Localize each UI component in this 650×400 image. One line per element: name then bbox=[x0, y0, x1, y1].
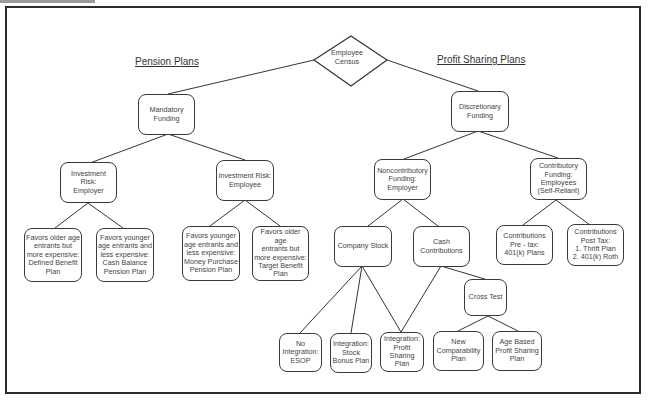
node-profit-sharing-plan: Integration: Profit Sharing Plan bbox=[380, 332, 424, 372]
node-contributions-posttax: Contributions Post Tax: 1. Thrift Plan 2… bbox=[567, 224, 624, 266]
node-discretionary-funding: Discretionary Funding bbox=[451, 91, 509, 132]
section-title-profit-sharing: Profit Sharing Plans bbox=[437, 54, 525, 65]
node-new-comparability: New Comparability Plan bbox=[433, 331, 484, 371]
node-money-purchase: Favors younger age entrants and less exp… bbox=[182, 226, 240, 281]
node-noncontributory-funding: Noncontributory Funding: Employer bbox=[374, 159, 431, 200]
employee-census-label: Employee Census bbox=[314, 48, 380, 66]
node-target-benefit: Favors older age entrants but more expen… bbox=[252, 226, 309, 281]
node-contributory-funding: Contributory Funding: Employees (Self-Re… bbox=[530, 158, 587, 200]
node-esop: No Integration: ESOP bbox=[279, 333, 322, 372]
node-age-based: Age Based Profit Sharing Plan bbox=[492, 331, 542, 371]
node-cash-balance: Favors younger age entrants and less exp… bbox=[96, 228, 154, 282]
node-defined-benefit: Favors older age entrants but more expen… bbox=[24, 228, 82, 282]
node-company-stock: Company Stock bbox=[334, 226, 392, 267]
node-cross-test: Cross Test bbox=[464, 279, 507, 316]
node-stock-bonus: Integration: Stock Bonus Plan bbox=[330, 333, 372, 373]
node-cash-contributions: Cash Contributions bbox=[413, 226, 470, 267]
node-investment-risk-employer: Investment Risk: Employer bbox=[60, 162, 117, 203]
node-investment-risk-employee: Investment Risk: Employee bbox=[216, 160, 274, 201]
node-contributions-pretax: Contributions Pre - tax: 401(k) Plans bbox=[496, 225, 553, 265]
section-title-pension: Pension Plans bbox=[135, 56, 199, 67]
node-mandatory-funding: Mandatory Funding bbox=[138, 94, 195, 135]
